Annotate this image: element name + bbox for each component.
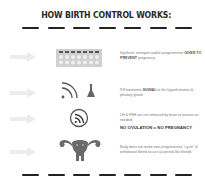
uterus-icon xyxy=(58,137,102,162)
step-3-text: LH & FSH are not released by brain to ov… xyxy=(120,113,202,122)
step-2-text-a: Pill hormones xyxy=(120,88,143,92)
step-1-text-b: pregnancy. xyxy=(137,56,156,60)
step-2-text: Pill hormones SIGNAL to the hypothalamus… xyxy=(120,88,202,97)
step-3-result: NO OVULATION = NO PREGNANCY xyxy=(120,125,192,130)
step-2-emphasis: SIGNAL xyxy=(143,88,157,92)
step-1-text-a: Synthetic estrogen and/or progesterone xyxy=(120,51,184,55)
arrow-icon xyxy=(10,88,36,98)
signal-to-brain-icon xyxy=(60,82,100,100)
page-title: HOW BIRTH CONTROL WORKS: xyxy=(22,9,190,20)
arrow-icon xyxy=(10,147,36,157)
arrow-icon xyxy=(10,114,36,124)
step-1-text: Synthetic estrogen and/or progesterone G… xyxy=(120,51,202,60)
blocked-signal-icon xyxy=(69,108,89,128)
bottom-divider xyxy=(22,174,192,177)
step-4-text: Body does not make own progesterone "cyc… xyxy=(120,145,202,154)
pill-pack-icon xyxy=(56,49,102,67)
top-divider xyxy=(22,27,192,30)
arrow-icon xyxy=(10,52,36,62)
